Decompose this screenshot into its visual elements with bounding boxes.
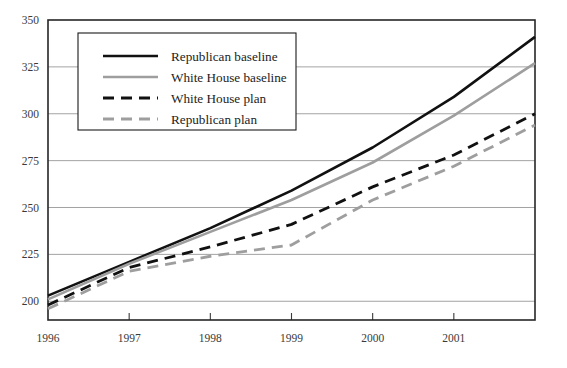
y-tick-label-350: 350 (22, 14, 40, 26)
x-axis-tick-labels: 199619971998199920002001 (37, 332, 466, 344)
line-chart: 200225250275300325350 199619971998199920… (0, 0, 567, 368)
legend-label-republican-baseline: Republican baseline (171, 49, 278, 64)
legend-label-white-house-plan: White House plan (171, 91, 267, 106)
x-tick-label-2000: 2000 (361, 332, 384, 344)
legend-label-republican-plan: Republican plan (171, 112, 257, 127)
x-tick-label-2001: 2001 (442, 332, 465, 344)
legend-label-white-house-baseline: White House baseline (171, 70, 287, 85)
x-tick-label-1996: 1996 (37, 332, 60, 344)
chart-container: 200225250275300325350 199619971998199920… (0, 0, 567, 368)
y-tick-label-275: 275 (22, 155, 40, 167)
y-tick-label-300: 300 (22, 108, 40, 120)
x-tick-label-1997: 1997 (118, 332, 141, 344)
y-tick-label-200: 200 (22, 295, 40, 307)
x-tick-label-1999: 1999 (280, 332, 303, 344)
x-axis-ticks (129, 313, 454, 320)
chart-legend: Republican baselineWhite House baselineW… (78, 33, 296, 130)
y-tick-label-325: 325 (22, 61, 40, 73)
x-tick-label-1998: 1998 (199, 332, 222, 344)
series-line-republican-plan (48, 125, 535, 309)
y-tick-label-250: 250 (22, 202, 40, 214)
y-axis-tick-labels: 200225250275300325350 (22, 14, 40, 307)
y-tick-label-225: 225 (22, 248, 40, 260)
